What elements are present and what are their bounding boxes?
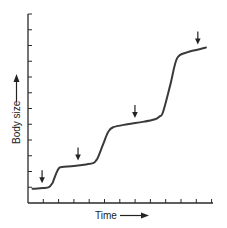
molt-arrow	[39, 170, 45, 183]
molt-arrows	[39, 32, 200, 184]
molt-arrow	[132, 105, 138, 118]
x-axis-label-group: Time	[95, 210, 149, 221]
y-axis-label-arrow-head	[14, 74, 20, 82]
x-axis-label: Time	[95, 210, 117, 221]
y-axis-label: Body size	[11, 100, 22, 144]
y-axis-label-group: Body size	[11, 74, 22, 144]
molt-arrow-head	[75, 154, 81, 160]
x-axis-label-arrow-head	[141, 213, 149, 219]
molt-arrow-head	[195, 39, 201, 45]
molt-arrow-head	[132, 112, 138, 118]
growth-chart: Time Body size	[0, 0, 227, 228]
molt-arrow	[75, 147, 81, 160]
series-line-body-size	[33, 48, 206, 189]
molt-arrow-head	[39, 177, 45, 183]
molt-arrow	[195, 32, 201, 45]
